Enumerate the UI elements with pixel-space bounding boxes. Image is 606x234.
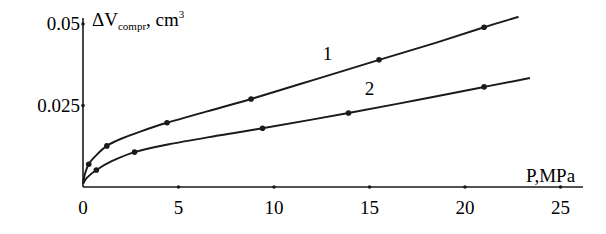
series-1-point bbox=[164, 120, 170, 126]
y-tick-mark bbox=[81, 22, 85, 26]
series-2-label: 2 bbox=[365, 78, 375, 99]
x-axis-label: P,MPa bbox=[526, 165, 576, 186]
x-tick-label: 25 bbox=[551, 197, 570, 218]
series-1-point bbox=[86, 161, 92, 167]
series-1-point bbox=[248, 96, 254, 102]
series-2-point bbox=[132, 149, 138, 155]
series-labels: 12 bbox=[323, 43, 375, 99]
x-tick-label: 5 bbox=[174, 197, 184, 218]
x-tick-mark bbox=[272, 185, 276, 189]
series-2-point bbox=[481, 84, 487, 90]
line-chart: 05101520250.0250.05 12 ΔVcompr, cm3 P,MP… bbox=[0, 0, 606, 234]
series-2-point bbox=[346, 110, 352, 116]
series-1-point bbox=[104, 143, 110, 149]
x-tick-label: 0 bbox=[78, 197, 88, 218]
y-tick-label: 0.05 bbox=[47, 13, 80, 34]
x-tick-label: 15 bbox=[360, 197, 379, 218]
data-curves bbox=[83, 17, 530, 184]
y-tick-mark bbox=[81, 104, 85, 108]
series-2-point bbox=[94, 167, 100, 173]
series-1-line bbox=[83, 17, 519, 184]
y-tick-label: 0.025 bbox=[37, 95, 80, 116]
series-2-line bbox=[83, 78, 530, 184]
x-tick-mark bbox=[368, 185, 372, 189]
series-1-point bbox=[376, 57, 382, 63]
x-tick-mark bbox=[177, 185, 181, 189]
x-tick-label: 20 bbox=[456, 197, 475, 218]
y-axis-label: ΔVcompr, cm3 bbox=[92, 8, 185, 32]
x-tick-mark bbox=[463, 185, 467, 189]
series-1-label: 1 bbox=[323, 43, 333, 64]
series-1-point bbox=[481, 24, 487, 30]
x-tick-label: 10 bbox=[265, 197, 284, 218]
axes bbox=[83, 18, 583, 187]
series-2-point bbox=[260, 126, 266, 132]
